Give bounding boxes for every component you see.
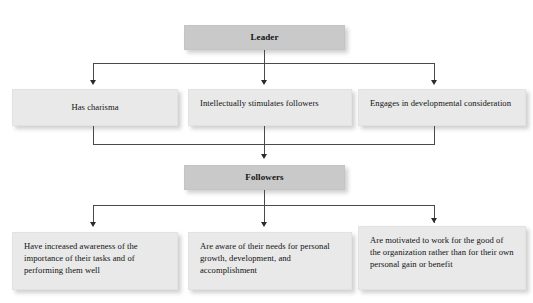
followers-header-label: Followers: [245, 171, 283, 184]
leader-arrow-center-icon: [261, 80, 267, 85]
leader-branch-line-right: [434, 63, 435, 81]
leader-child-box-3[interactable]: Engages in developmental consideration: [358, 89, 526, 126]
followers-arrow-center-icon: [261, 222, 267, 227]
followers-child-box-3[interactable]: Are motivated to work for the good of th…: [358, 226, 526, 290]
leader-child-label-3: Engages in developmental consideration: [370, 97, 511, 109]
leader-branch-line-center: [264, 63, 265, 81]
followers-branch-line-left: [93, 205, 94, 223]
leader-child-box-2[interactable]: Intellectually stimulates followers: [188, 89, 352, 126]
merge-riser-center: [264, 126, 265, 144]
followers-branch-line-center: [264, 205, 265, 223]
leader-child-box-1[interactable]: Has charisma: [12, 89, 178, 126]
merge-riser-left: [93, 126, 94, 144]
leader-arrow-right-icon: [431, 80, 437, 85]
followers-arrow-right-icon: [431, 218, 437, 223]
followers-child-label-1: Have increased awareness of the importan…: [24, 240, 168, 277]
followers-stem-line: [264, 190, 265, 205]
merge-riser-right: [434, 126, 435, 144]
followers-child-box-1[interactable]: Have increased awareness of the importan…: [12, 232, 178, 290]
leader-child-label-1: Has charisma: [71, 101, 118, 113]
followers-header-box[interactable]: Followers: [184, 165, 345, 190]
leadership-flow-diagram: Leader Has charisma Intellectually stimu…: [0, 0, 533, 303]
leader-header-box[interactable]: Leader: [184, 25, 345, 50]
leader-branch-line-left: [93, 63, 94, 81]
leader-stem-line: [264, 50, 265, 63]
followers-child-label-3: Are motivated to work for the good of th…: [370, 234, 516, 271]
followers-child-box-2[interactable]: Are aware of their needs for personal gr…: [188, 232, 352, 290]
followers-arrow-left-icon: [90, 222, 96, 227]
leader-child-label-2: Intellectually stimulates followers: [200, 97, 319, 109]
leader-header-label: Leader: [250, 31, 278, 44]
followers-child-label-2: Are aware of their needs for personal gr…: [200, 240, 342, 277]
leader-arrow-left-icon: [90, 80, 96, 85]
followers-arrow-icon: [261, 154, 267, 159]
